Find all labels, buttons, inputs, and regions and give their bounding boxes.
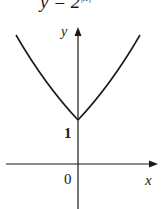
function-graph-figure: y = 2|x| y 1 0 x (0, 0, 164, 209)
origin-label: 0 (64, 171, 72, 187)
curve-right-branch (78, 35, 140, 120)
y-axis-arrow-icon (75, 27, 82, 36)
x-axis-arrow-icon (149, 161, 158, 168)
graph-canvas: y 1 0 x (0, 0, 164, 209)
x-axis-label: x (144, 172, 152, 188)
y-intercept-label: 1 (64, 125, 72, 141)
curve-left-branch (16, 35, 78, 120)
y-axis-label: y (59, 24, 68, 39)
